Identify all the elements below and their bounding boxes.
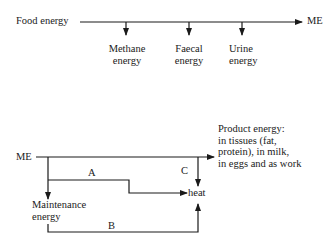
product-line3: protein), in milk, bbox=[218, 146, 301, 158]
product-line2: in tissues (fat, bbox=[218, 135, 301, 147]
urine-energy-label: Urine energy bbox=[229, 43, 257, 67]
product-energy-label: Product energy: in tissues (fat, protein… bbox=[218, 123, 301, 169]
heat-label: heat bbox=[188, 187, 206, 199]
path-a-line bbox=[48, 180, 187, 193]
faecal-line1: Faecal bbox=[170, 43, 208, 55]
food-energy-label: Food energy bbox=[16, 15, 69, 27]
product-line4: in eggs and as work bbox=[218, 158, 301, 170]
urine-line2: energy bbox=[229, 55, 257, 67]
methane-line1: Methane bbox=[106, 43, 148, 55]
path-a-label: A bbox=[88, 167, 96, 179]
maintenance-line1: Maintenance bbox=[32, 199, 86, 211]
maintenance-line2: energy bbox=[32, 211, 86, 223]
path-c-label: C bbox=[181, 165, 188, 177]
product-line1: Product energy: bbox=[218, 123, 301, 135]
maintenance-energy-label: Maintenance energy bbox=[32, 199, 86, 223]
urine-line1: Urine bbox=[229, 43, 257, 55]
methane-line2: energy bbox=[106, 55, 148, 67]
faecal-line2: energy bbox=[170, 55, 208, 67]
me-bottom-label: ME bbox=[16, 151, 32, 163]
me-top-label: ME bbox=[307, 15, 323, 27]
methane-energy-label: Methane energy bbox=[106, 43, 148, 67]
path-b-label: B bbox=[108, 220, 115, 232]
energy-flow-diagram: Food energy ME Methane energy Faecal ene… bbox=[0, 0, 335, 249]
faecal-energy-label: Faecal energy bbox=[170, 43, 208, 67]
